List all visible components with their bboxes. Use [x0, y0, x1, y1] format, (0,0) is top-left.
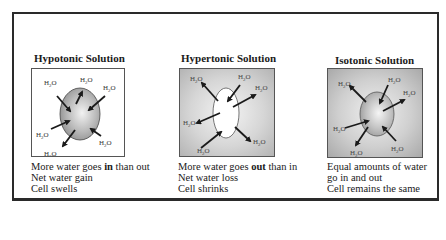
water-label: H2O	[80, 76, 93, 85]
water-label: H2O	[197, 147, 210, 156]
hypertonic-desc-line1: More water goes out than in	[178, 161, 297, 172]
water-label: H2O	[338, 80, 351, 89]
water-label: H2O	[44, 79, 57, 88]
isotonic-diagram: H2O H2O H2O H2O H2O H2O	[327, 68, 423, 158]
hypertonic-desc-line2: Net water loss	[178, 172, 297, 183]
hypotonic-diagram: H2O H2O H2O H2O H2O H2O	[31, 68, 125, 157]
water-label: H2O	[99, 139, 112, 148]
water-label: H2O	[388, 76, 401, 85]
water-label: H2O	[253, 138, 266, 147]
hypertonic-diagram: H2O H2O H2O H2O H2O H2O	[179, 68, 275, 157]
water-label: H2O	[403, 89, 416, 98]
hypotonic-illustration: H2O H2O H2O H2O H2O H2O	[32, 69, 125, 157]
hypertonic-description: More water goes out than in Net water lo…	[178, 161, 297, 194]
hypotonic-title: Hypotonic Solution	[34, 52, 125, 64]
water-label: H2O	[255, 84, 268, 93]
water-label: H2O	[333, 125, 346, 134]
water-label: H2O	[183, 119, 196, 128]
water-label: H2O	[238, 73, 251, 82]
isotonic-desc-line1: Equal amounts of water	[327, 161, 427, 172]
water-label: H2O	[103, 84, 116, 93]
water-label: H2O	[391, 145, 404, 154]
hypertonic-desc-line3: Cell shrinks	[178, 183, 297, 194]
isotonic-desc-line2: go in and out	[327, 172, 427, 183]
hypotonic-desc-line3: Cell swells	[31, 183, 150, 194]
hypertonic-title: Hypertonic Solution	[181, 52, 276, 64]
isotonic-description: Equal amounts of water go in and out Cel…	[327, 161, 427, 194]
water-label: H2O	[350, 149, 363, 158]
isotonic-desc-line3: Cell remains the same	[327, 183, 427, 194]
hypotonic-desc-line2: Net water gain	[31, 172, 150, 183]
water-label: H2O	[190, 75, 203, 84]
normal-cell	[360, 92, 394, 136]
hypotonic-description: More water goes in than out Net water ga…	[31, 161, 150, 194]
isotonic-title: Isotonic Solution	[335, 54, 414, 66]
isotonic-illustration: H2O H2O H2O H2O H2O H2O	[328, 69, 423, 158]
hypotonic-desc-line1: More water goes in than out	[31, 161, 150, 172]
hypertonic-illustration: H2O H2O H2O H2O H2O H2O	[180, 69, 275, 157]
water-label: H2O	[44, 150, 57, 157]
shrunken-cell	[213, 88, 239, 138]
water-label: H2O	[36, 131, 49, 140]
